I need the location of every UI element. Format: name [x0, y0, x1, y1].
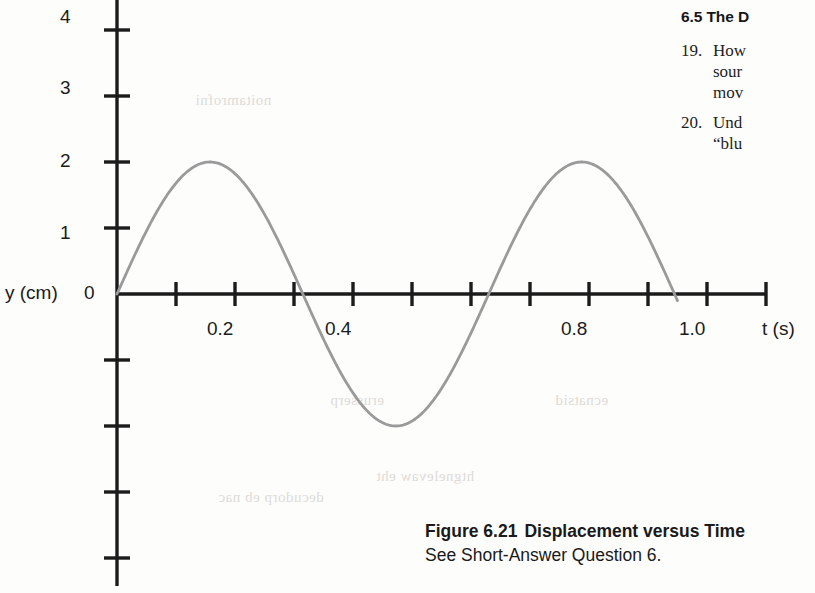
- x-tick-label-0-8: 0.8: [561, 318, 587, 340]
- x-axis-label: t (s): [762, 318, 795, 340]
- question-number: 20.: [681, 112, 702, 133]
- question-item: 19. How sour mov: [612, 40, 815, 103]
- question-item: 20. Und “blu: [612, 112, 815, 154]
- y-axis-label: y (cm): [5, 282, 58, 304]
- question-line: sour: [681, 61, 815, 82]
- figure-caption: Figure 6.21Displacement versus Time See …: [425, 519, 815, 567]
- question-number: 19.: [681, 40, 702, 61]
- x-tick-label-0-2: 0.2: [207, 318, 233, 340]
- y-tick-label-4: 4: [60, 6, 71, 28]
- question-line: mov: [681, 82, 815, 103]
- y-tick-label-1: 1: [60, 222, 71, 244]
- y-tick-label-3: 3: [60, 77, 71, 99]
- figure-title: Displacement versus Time: [524, 521, 744, 541]
- textbook-question-column: 6.5 The D 19. How sour mov 20. Und “blu: [612, 0, 815, 154]
- question-line: “blu: [681, 133, 815, 154]
- scanned-textbook-figure-page: noitamrofni erusserp decudorp eb nac htg…: [0, 0, 815, 593]
- figure-label: Figure 6.21: [425, 521, 517, 541]
- section-heading: 6.5 The D: [612, 0, 815, 26]
- x-tick-label-1-0: 1.0: [679, 318, 705, 340]
- y-tick-label-2: 2: [60, 150, 71, 172]
- y-tick-label-0: 0: [84, 282, 95, 304]
- caption-line-2: See Short-Answer Question 6.: [425, 543, 815, 567]
- x-tick-label-0-4: 0.4: [325, 318, 351, 340]
- caption-line-1: Figure 6.21Displacement versus Time: [425, 519, 815, 543]
